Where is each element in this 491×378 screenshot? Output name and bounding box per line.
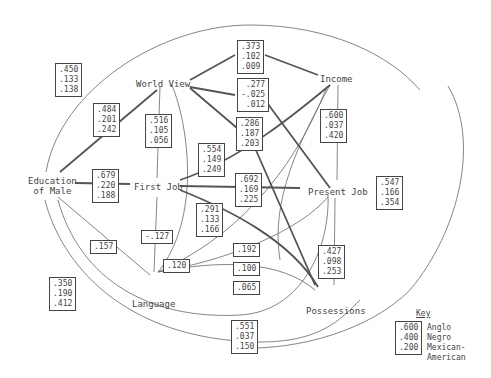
edu-presentjob-arc xyxy=(58,195,328,315)
coef-worldview-firstjob: .516.105.056 xyxy=(145,114,172,148)
coef-income-possessions: .547.166.354 xyxy=(376,176,403,210)
coef-worldview-presentjob: .277-.025.012 xyxy=(237,78,269,112)
key-labels: Anglo Negro Mexican- American xyxy=(427,323,466,363)
coef-language-presentjob: .100 xyxy=(233,262,260,276)
coef-edu-worldview: .484.201.242 xyxy=(93,103,120,137)
coef-edu-income: .450.133.138 xyxy=(55,63,82,97)
key-label-american: American xyxy=(427,353,466,363)
key-label-anglo: Anglo xyxy=(427,323,466,333)
node-world-view: World View xyxy=(136,79,190,89)
node-possessions: Possessions xyxy=(306,306,366,316)
node-first-job: First Job xyxy=(134,182,183,192)
edu-language-line xyxy=(58,197,150,275)
coef-firstjob-possessions: .291.133.166 xyxy=(196,203,223,237)
edu-income-arc xyxy=(46,25,420,172)
node-present-job: Present Job xyxy=(308,187,368,197)
coef-worldview-income: .373.102.009 xyxy=(237,40,264,74)
node-language: Language xyxy=(132,299,175,309)
key-label-negro: Negro xyxy=(427,333,466,343)
node-income: Income xyxy=(320,74,353,84)
coef-firstjob-language: -.127 xyxy=(141,230,173,244)
coef-income-presentjob: .600.037.420 xyxy=(320,109,347,143)
coef-firstjob-income: .554.149.249 xyxy=(198,143,225,177)
coef-edu-firstjob: .679.220.188 xyxy=(92,169,119,203)
coef-edu-possessions: .350.190.412 xyxy=(49,277,76,311)
coef-firstjob-presentjob: .692.169.225 xyxy=(235,173,262,207)
coef-language-possessions: .065 xyxy=(233,281,260,295)
coef-presentjob-possessions: .427.098.253 xyxy=(318,245,345,279)
coef-worldview-possessions: .286.187.203 xyxy=(236,117,263,151)
node-label: Education xyxy=(28,176,77,186)
coef-language-income: .192 xyxy=(233,243,260,257)
node-label: of Male xyxy=(28,186,77,196)
node-education-of-male: Education of Male xyxy=(28,176,77,196)
key-label-mexican: Mexican- xyxy=(427,343,466,353)
coef-edu-language: .157 xyxy=(90,240,117,254)
key-title: Key xyxy=(416,309,430,318)
coef-edu-presentjob: .551.037.150 xyxy=(231,320,258,354)
key-values-box: .600.400.200 xyxy=(395,321,422,355)
coef-worldview-language: .120 xyxy=(163,259,190,273)
